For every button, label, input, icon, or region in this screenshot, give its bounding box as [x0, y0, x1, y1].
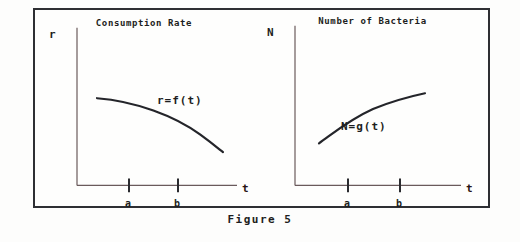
x-axis-label-t: t [466, 182, 473, 195]
x-tick-label-a: a [344, 198, 350, 209]
plot-area-consumption-rate [35, 10, 253, 206]
x-tick-label-b: b [174, 198, 180, 209]
plot-area-number-of-bacteria [253, 10, 492, 206]
x-tick-label-a: a [125, 198, 131, 209]
figure-frame: Consumption Rate r r=f(t) t a b Number o… [33, 8, 490, 208]
figure-caption: Figure 5 [0, 213, 520, 226]
curve-N-of-t [319, 93, 425, 143]
chart-panel-consumption-rate: Consumption Rate r r=f(t) t a b [35, 10, 253, 206]
x-tick-label-b: b [396, 198, 402, 209]
chart-panel-number-of-bacteria: Number of Bacteria N N=g(t) t a b [253, 10, 492, 206]
curve-label-r-of-t: r=f(t) [157, 94, 203, 107]
x-axis-label-t: t [242, 182, 249, 195]
curve-label-N-of-t: N=g(t) [341, 120, 387, 133]
